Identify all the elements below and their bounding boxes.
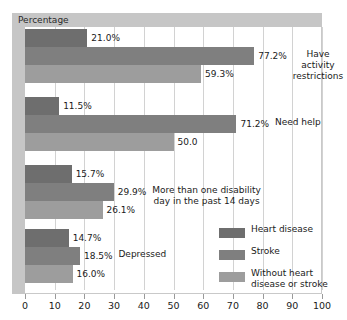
x-tick: [84, 294, 85, 299]
bar-4-3: [25, 265, 73, 283]
bar-value-label: 29.9%: [118, 183, 147, 201]
legend-label: Stroke: [251, 246, 280, 257]
x-tick: [322, 294, 323, 299]
bar-1-3: [25, 65, 201, 83]
x-axis-labels: 0102030405060708090100: [25, 300, 322, 314]
bar-1-1: [25, 29, 87, 47]
x-tick-label: 90: [286, 300, 298, 311]
category-label: Depressed: [118, 249, 166, 260]
y-axis-gutter: [12, 27, 25, 294]
bar-4-2: [25, 247, 80, 265]
bar-value-label: 16.0%: [77, 265, 106, 283]
bar-value-label: 59.3%: [205, 65, 234, 83]
bar-3-2: [25, 183, 114, 201]
x-tick-label: 100: [313, 300, 331, 311]
bar-value-label: 15.7%: [76, 165, 105, 183]
bar-2-1: [25, 97, 59, 115]
bar-value-label: 18.5%: [84, 247, 113, 265]
x-tick-label: 50: [167, 300, 179, 311]
x-tick: [144, 294, 145, 299]
bar-3-1: [25, 165, 72, 183]
x-tick: [292, 294, 293, 299]
bar-value-label: 14.7%: [73, 229, 102, 247]
bar-group: 15.7%29.9%More than one disability day i…: [25, 165, 321, 219]
x-tick: [203, 294, 204, 299]
legend-swatch: [219, 272, 245, 282]
x-tick: [25, 294, 26, 299]
bar-3-3: [25, 201, 103, 219]
legend-item[interactable]: Without heart disease or stroke: [219, 270, 339, 294]
bar-2-2: [25, 115, 236, 133]
bar-value-label: 50.0: [178, 133, 198, 151]
x-tick-label: 70: [227, 300, 239, 311]
bar-value-label: 77.2%: [258, 47, 287, 65]
x-tick: [114, 294, 115, 299]
bar-4-1: [25, 229, 69, 247]
legend-item[interactable]: Stroke: [219, 248, 339, 270]
category-label: More than one disability day in the past…: [152, 185, 261, 207]
bar-2-3: [25, 133, 174, 151]
x-tick-label: 80: [257, 300, 269, 311]
bar-group: 11.5%71.2%Need help50.0: [25, 97, 321, 151]
category-label: Need help: [275, 117, 321, 128]
x-tick: [263, 294, 264, 299]
bar-value-label: 71.2%: [240, 115, 269, 133]
legend-label: Without heart disease or stroke: [251, 268, 328, 289]
x-tick-label: 10: [49, 300, 61, 311]
legend-label: Heart disease: [251, 224, 313, 235]
x-tick-label: 60: [197, 300, 209, 311]
category-label: Have activity restrictions: [293, 49, 343, 82]
legend-swatch: [219, 228, 245, 238]
x-tick-label: 20: [78, 300, 90, 311]
legend-item[interactable]: Heart disease: [219, 226, 339, 248]
bar-value-label: 11.5%: [63, 97, 92, 115]
bar-group: 21.0%77.2%Have activity restrictions59.3…: [25, 29, 321, 83]
bar-value-label: 26.1%: [107, 201, 136, 219]
x-tick-label: 30: [108, 300, 120, 311]
x-tick: [233, 294, 234, 299]
bar-value-label: 21.0%: [91, 29, 120, 47]
x-tick-label: 0: [22, 300, 28, 311]
chart-root: Percentage 21.0%77.2%Have activity restr…: [0, 0, 347, 320]
chart-title: Percentage: [18, 13, 69, 27]
chart-legend: Heart diseaseStrokeWithout heart disease…: [219, 226, 339, 294]
legend-swatch: [219, 250, 245, 260]
x-tick: [55, 294, 56, 299]
x-tick-label: 40: [138, 300, 150, 311]
x-tick: [174, 294, 175, 299]
bar-1-2: [25, 47, 254, 65]
